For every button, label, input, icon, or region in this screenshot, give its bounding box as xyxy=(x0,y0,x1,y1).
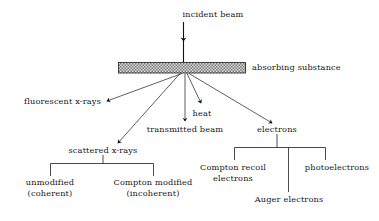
label-electrons: electrons xyxy=(257,124,297,135)
label-auger-electrons: Auger electrons xyxy=(255,194,324,205)
label-compton-modified-line2: (incoherent) xyxy=(126,188,179,198)
absorbing-slab xyxy=(119,63,246,74)
label-absorbing-substance: absorbing substance xyxy=(252,62,341,73)
label-unmodified-line1: unmodified xyxy=(26,177,74,187)
label-compton-modified-line1: Compton modified xyxy=(114,177,193,187)
label-photoelectrons: photoelectrons xyxy=(305,162,369,173)
label-unmodified-coherent: unmodified (coherent) xyxy=(10,177,90,198)
label-transmitted-beam: transmitted beam xyxy=(147,124,223,135)
ray-heat xyxy=(187,74,201,104)
label-heat: heat xyxy=(193,108,212,119)
label-compton-recoil-line1: Compton recoil xyxy=(200,162,266,172)
label-compton-recoil-line2: electrons xyxy=(213,173,253,183)
label-fluorescent-xrays: fluorescent x-rays xyxy=(24,96,101,107)
label-unmodified-line2: (coherent) xyxy=(28,188,73,198)
label-scattered-xrays: scattered x-rays xyxy=(69,145,138,156)
scattered-xrays-bracket xyxy=(51,155,154,176)
label-compton-recoil-electrons: Compton recoil electrons xyxy=(185,162,281,183)
ray-fluorescent-xrays xyxy=(107,74,182,102)
label-incident-beam: incident beam xyxy=(182,9,243,20)
diagram-canvas: incident beam absorbing substance fluore… xyxy=(0,0,379,221)
